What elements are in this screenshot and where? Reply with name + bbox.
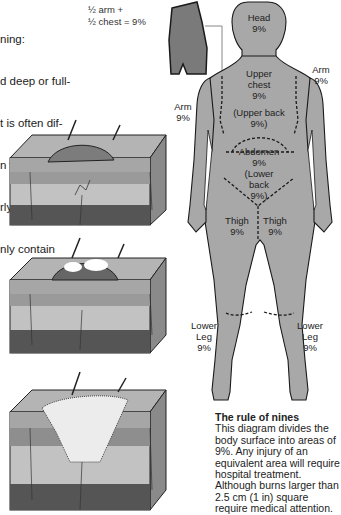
region-name: Abdomen (232, 146, 286, 157)
skin-illustration-superficial (10, 120, 166, 225)
label-abdomen: Abdomen9% (232, 146, 286, 168)
label-thigh-right: Thigh9% (259, 215, 291, 237)
region-name: Upper chest (236, 68, 282, 90)
region-pct: 9% (188, 342, 220, 353)
region-name: Lower Leg (294, 320, 326, 342)
region-name: (Lower back (238, 168, 280, 190)
region-pct: 9% (232, 157, 286, 168)
region-name: Head (244, 12, 274, 23)
label-lower-leg-left: Lower Leg9% (188, 320, 220, 353)
label-lower-leg-right: Lower Leg9% (294, 320, 326, 353)
region-name: Thigh (222, 215, 252, 226)
region-pct: 9% (244, 23, 274, 34)
region-pct: 9% (306, 75, 336, 86)
region-pct: 9% (294, 342, 326, 353)
region-name: Thigh (259, 215, 291, 226)
region-name: Lower Leg (188, 320, 220, 342)
region-name: Arm (306, 64, 336, 75)
caption-body: This diagram divides the body surface in… (215, 423, 341, 514)
region-name: (Upper back (224, 107, 294, 118)
caption: The rule of nines This diagram divides t… (215, 412, 341, 515)
label-upper-back: (Upper back9%) (224, 107, 294, 129)
label-arm-left: Arm9% (168, 101, 198, 123)
label-arm-right: Arm9% (306, 64, 336, 86)
label-head: Head9% (244, 12, 274, 34)
region-pct: 9%) (238, 190, 280, 201)
region-pct: 9% (259, 226, 291, 237)
region-pct: 9% (222, 226, 252, 237)
region-pct: 9%) (224, 118, 294, 129)
skin-illustration-partial-thickness (10, 238, 166, 353)
skin-illustration-full-thickness (10, 372, 166, 510)
region-pct: 9% (236, 90, 282, 101)
region-pct: 9% (168, 112, 198, 123)
label-thigh-left: Thigh9% (222, 215, 252, 237)
label-lower-back: (Lower back9%) (238, 168, 280, 201)
region-name: Arm (168, 101, 198, 112)
inset-half-chest-shape (169, 2, 222, 74)
label-upper-chest: Upper chest9% (236, 68, 282, 101)
